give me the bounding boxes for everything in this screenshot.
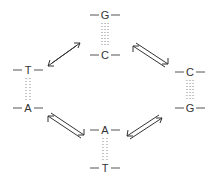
base-c: C bbox=[186, 66, 194, 78]
base-c: C bbox=[101, 49, 109, 61]
base-pair-left: T A bbox=[13, 64, 43, 114]
base-g: G bbox=[186, 102, 195, 114]
base-a: A bbox=[24, 102, 32, 114]
equilibrium-arrow-bottom-right bbox=[127, 115, 162, 139]
equilibrium-arrow-left-bottom bbox=[48, 113, 84, 138]
equilibrium-arrow-left-top bbox=[48, 43, 80, 66]
equilibrium-arrow-top-right bbox=[133, 43, 168, 67]
base-t: T bbox=[102, 162, 109, 174]
base-g: G bbox=[101, 9, 110, 21]
base-pair-right: C G bbox=[175, 66, 205, 114]
base-pair-top: G C bbox=[90, 9, 120, 61]
base-pair-cycle-diagram: G C T A C G A T bbox=[0, 0, 221, 180]
base-pair-bottom: A T bbox=[90, 124, 120, 174]
base-a: A bbox=[101, 124, 109, 136]
base-t: T bbox=[25, 64, 32, 76]
